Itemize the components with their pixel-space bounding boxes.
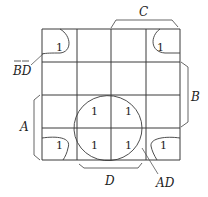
cell-0-0: 1 — [56, 41, 63, 54]
brace-b — [181, 62, 188, 127]
brace-d — [79, 163, 142, 168]
label-c: C — [139, 5, 148, 19]
cell-3-0: 1 — [56, 139, 63, 152]
cell-2-1: 1 — [91, 105, 98, 118]
cell-2-2: 1 — [125, 105, 132, 118]
label-b: B — [190, 90, 200, 104]
brace-c — [111, 20, 178, 28]
label-d: D — [104, 174, 115, 188]
cell-3-2: 1 — [125, 139, 132, 152]
label-ad: AD — [155, 176, 175, 190]
label-bd-bar: BD — [12, 64, 32, 78]
brace-a — [34, 95, 40, 160]
cell-3-1: 1 — [91, 139, 98, 152]
cell-0-3: 1 — [157, 41, 164, 54]
pointer-ad — [142, 148, 158, 174]
karnaugh-map-diagram: 1 1 1 1 1 1 1 1 C B A D BD AD — [0, 0, 208, 197]
label-a: A — [19, 120, 29, 134]
cell-3-3: 1 — [160, 139, 167, 152]
